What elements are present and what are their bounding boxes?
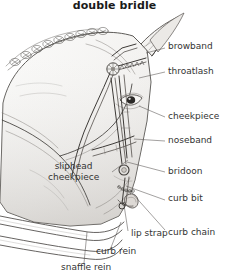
label-sliphead-line1: sliphead <box>48 161 99 172</box>
label-sliphead-line2: cheekpiece <box>48 172 99 183</box>
label-noseband: noseband <box>168 135 212 146</box>
label-lip-strap: lip strap <box>131 228 168 239</box>
label-curb-chain: curb chain <box>168 227 215 238</box>
label-snaffle-rein: snaffle rein <box>61 262 111 273</box>
label-curb-bit: curb bit <box>168 193 203 204</box>
label-cheekpiece: cheekpiece <box>168 111 219 122</box>
label-throatlash: throatlash <box>168 66 214 77</box>
label-bridoon: bridoon <box>168 166 202 177</box>
figure-title: double bridle <box>0 0 229 12</box>
label-browband: browband <box>168 41 213 52</box>
label-curb-rein: curb rein <box>96 246 136 257</box>
label-sliphead-cheekpiece: sliphead cheekpiece <box>48 161 99 183</box>
